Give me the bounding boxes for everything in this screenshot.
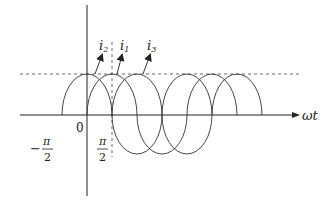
pi-denominator: 2 [99, 151, 106, 164]
label-i3: i3 [147, 38, 156, 54]
minus-sign: − [30, 141, 41, 156]
minus-pi-denominator: 2 [44, 151, 51, 164]
waveforms [62, 74, 262, 154]
i2-pointer-arrow [95, 55, 102, 74]
pi-numerator: π [98, 135, 107, 148]
i3-pointer-arrow [143, 55, 150, 74]
minus-pi-numerator: π [42, 135, 51, 148]
origin-label: 0 [76, 121, 84, 135]
label-i1: i1 [120, 38, 129, 54]
axis-arrow-icon [292, 112, 300, 118]
label-i2: i2 [99, 38, 108, 54]
x-axis-label: ωt [302, 108, 319, 123]
i1-pointer-arrow [117, 55, 122, 74]
